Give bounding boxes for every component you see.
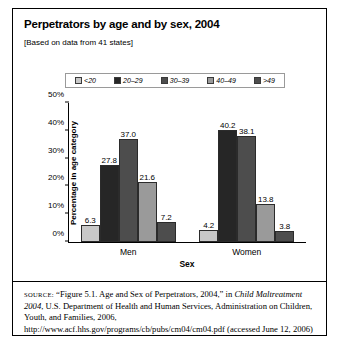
y-tick-label: 50% bbox=[48, 90, 64, 99]
legend-swatch-icon bbox=[75, 77, 82, 84]
bar-value-label: 13.8 bbox=[258, 195, 274, 204]
legend-label: 20–29 bbox=[123, 77, 142, 84]
legend-swatch-icon bbox=[207, 77, 214, 84]
legend-label: >49 bbox=[263, 77, 275, 84]
legend-swatch-icon bbox=[114, 77, 121, 84]
chart-legend: <2020–2930–3940–49>49 bbox=[65, 73, 285, 88]
bar-value-label: 7.2 bbox=[161, 213, 172, 222]
bar[interactable]: 21.6 bbox=[138, 182, 157, 242]
bar[interactable]: 7.2 bbox=[157, 222, 176, 242]
bar-value-label: 3.8 bbox=[279, 222, 290, 231]
y-tick-label: 40% bbox=[48, 117, 64, 126]
bar-value-label: 40.2 bbox=[220, 121, 236, 130]
y-tick-label: 20% bbox=[48, 173, 64, 182]
bar-value-label: 27.8 bbox=[101, 156, 117, 165]
plot-area: Percentage in age category 0%10%20%30%40… bbox=[68, 103, 306, 243]
bar-group-women: 4.240.238.113.83.8Women bbox=[188, 103, 307, 242]
bar[interactable]: 13.8 bbox=[256, 204, 275, 242]
bar[interactable]: 37.0 bbox=[119, 139, 138, 242]
x-tick-label: Women bbox=[232, 247, 261, 257]
source-note: SOURCE: “Figure 5.1. Age and Sex of Perp… bbox=[24, 289, 315, 335]
legend-item-1[interactable]: 20–29 bbox=[114, 77, 142, 84]
bar-value-label: 6.3 bbox=[85, 216, 96, 225]
figure-container: Perpetrators by age and by sex, 2004 [Ba… bbox=[12, 8, 327, 336]
legend-swatch-icon bbox=[161, 77, 168, 84]
y-tick-label: 10% bbox=[48, 201, 64, 210]
legend-item-3[interactable]: 40–49 bbox=[207, 77, 235, 84]
source-text-part2: , U.S. Department of Health and Human Se… bbox=[24, 301, 313, 334]
legend-item-2[interactable]: 30–39 bbox=[161, 77, 189, 84]
x-tick-label: Men bbox=[120, 247, 137, 257]
bar-value-label: 37.0 bbox=[120, 130, 136, 139]
source-prefix: SOURCE: bbox=[24, 291, 54, 298]
x-axis-label: Sex bbox=[68, 259, 306, 269]
legend-item-0[interactable]: <20 bbox=[75, 77, 96, 84]
bar-value-label: 21.6 bbox=[139, 173, 155, 182]
bar-groups: 6.327.837.021.67.2Men4.240.238.113.83.8W… bbox=[69, 103, 306, 242]
bar[interactable]: 6.3 bbox=[81, 225, 100, 243]
bar[interactable]: 4.2 bbox=[199, 230, 218, 242]
bar[interactable]: 27.8 bbox=[100, 165, 119, 242]
bar[interactable]: 40.2 bbox=[218, 130, 237, 242]
y-tick-label: 30% bbox=[48, 145, 64, 154]
bar[interactable]: 3.8 bbox=[275, 231, 294, 242]
bar-value-label: 4.2 bbox=[203, 221, 214, 230]
source-divider bbox=[13, 281, 326, 282]
figure-subtitle: [Based on data from 41 states] bbox=[24, 38, 133, 47]
y-tick-label: 0% bbox=[52, 229, 64, 238]
legend-label: <20 bbox=[84, 77, 96, 84]
legend-label: 30–39 bbox=[170, 77, 189, 84]
figure-title: Perpetrators by age and by sex, 2004 bbox=[24, 18, 219, 30]
bar-group-men: 6.327.837.021.67.2Men bbox=[69, 103, 188, 242]
bar-value-label: 38.1 bbox=[239, 127, 255, 136]
bar[interactable]: 38.1 bbox=[237, 136, 256, 242]
legend-swatch-icon bbox=[254, 77, 261, 84]
legend-item-4[interactable]: >49 bbox=[254, 77, 275, 84]
source-text-part1: “Figure 5.1. Age and Sex of Perpetrators… bbox=[54, 289, 234, 299]
legend-label: 40–49 bbox=[216, 77, 235, 84]
